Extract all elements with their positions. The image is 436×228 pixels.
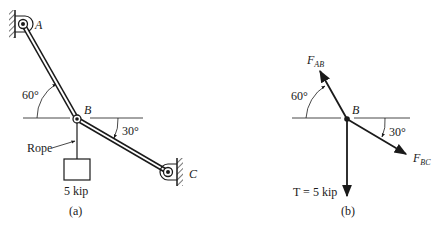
pin-a-icon (19, 20, 28, 29)
label-point-b: B (84, 103, 92, 117)
label-angle-30-b: 30° (389, 125, 406, 139)
label-angle-30: 30° (122, 124, 139, 138)
figure-b: FAB FBC T = 5 kip 60° 30° B (b) (291, 53, 431, 218)
label-rope: Rope (27, 141, 52, 155)
weight-block (64, 159, 90, 180)
angle-arc-30 (114, 118, 118, 138)
label-point-a: A (34, 18, 43, 32)
member-ab (23, 24, 77, 119)
caption-b: (b) (341, 204, 355, 218)
label-point-b-b: B (352, 103, 360, 117)
label-force-ab: FAB (306, 53, 324, 69)
caption-a: (a) (69, 204, 82, 218)
pin-c-icon (164, 168, 173, 177)
label-angle-60-b: 60° (291, 89, 308, 103)
statics-figure: A C 60° 30° B Rope 5 (0, 0, 436, 228)
angle-arc-60-b (306, 86, 325, 118)
rope-leader-arrow (52, 141, 75, 148)
label-tension: T = 5 kip (293, 185, 337, 199)
angle-arc-30-b (382, 118, 385, 137)
label-angle-60: 60° (22, 88, 39, 102)
label-weight: 5 kip (64, 184, 88, 198)
angle-arc-60 (37, 84, 56, 118)
figure-a: A C 60° 30° B Rope 5 (9, 10, 198, 218)
label-point-c: C (189, 167, 198, 181)
point-b-dot (344, 116, 350, 122)
pin-b-icon (73, 115, 81, 123)
force-ab-arrow (320, 71, 347, 119)
label-force-bc: FBC (412, 151, 431, 167)
